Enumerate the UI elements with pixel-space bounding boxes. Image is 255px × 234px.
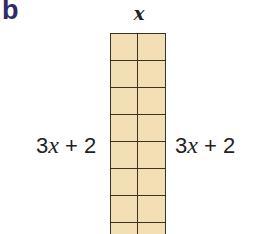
grid-tile — [138, 196, 165, 223]
part-label: b — [2, 0, 19, 24]
grid-tile — [111, 223, 138, 234]
grid-tile — [111, 196, 138, 223]
right-rest: + 2 — [198, 133, 235, 158]
grid-tile — [111, 115, 138, 142]
left-side-label: 3x + 2 — [36, 133, 96, 158]
grid-tile — [138, 223, 165, 234]
width-label: x — [131, 4, 147, 24]
left-coef: 3 — [36, 133, 48, 158]
right-side-label: 3x + 2 — [175, 133, 235, 158]
right-var: x — [187, 132, 198, 158]
right-coef: 3 — [175, 133, 187, 158]
grid-tile — [138, 34, 165, 61]
tile-grid — [110, 33, 166, 234]
grid-tile — [111, 34, 138, 61]
left-var: x — [48, 132, 59, 158]
grid-tile — [138, 61, 165, 88]
grid-tile — [138, 115, 165, 142]
grid-tile — [111, 142, 138, 169]
grid-tile — [111, 88, 138, 115]
grid-tile — [111, 169, 138, 196]
grid-tile — [138, 142, 165, 169]
grid-tile — [111, 61, 138, 88]
grid-tile — [138, 169, 165, 196]
left-rest: + 2 — [59, 133, 96, 158]
grid-tile — [138, 88, 165, 115]
